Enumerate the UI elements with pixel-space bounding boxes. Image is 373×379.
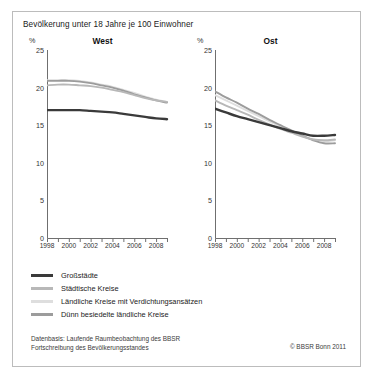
series-line	[215, 95, 335, 141]
panel-ost: % Ost 0510152025199820002002200420062008	[189, 36, 352, 251]
plot-svg	[215, 50, 337, 246]
y-tick-label: 15	[36, 121, 44, 130]
plot-area-ost: 0510152025199820002002200420062008	[215, 50, 335, 238]
x-tick-label: 2004	[273, 242, 288, 249]
x-tick-label: 1998	[208, 242, 223, 249]
panel-title-west: West	[21, 36, 184, 46]
legend-swatch-icon	[31, 300, 53, 303]
panel-west: % West 051015202519982000200220042006200…	[21, 36, 184, 251]
x-tick-label: 2002	[83, 242, 98, 249]
legend-item-label: Städtische Kreise	[61, 284, 119, 293]
legend-item-label: Großstädte	[61, 271, 98, 280]
y-tick-label: 10	[36, 158, 44, 167]
series-line	[215, 100, 335, 140]
legend-item: Großstädte	[31, 269, 341, 282]
legend-swatch-icon	[31, 287, 53, 290]
data-source-line-1: Datenbasis: Laufende Raumbeobachtung des…	[31, 334, 346, 343]
y-tick-label: 5	[40, 196, 44, 205]
legend-item: Städtische Kreise	[31, 282, 341, 295]
legend-item: Ländliche Kreise mit Verdichtungsansätze…	[31, 295, 341, 308]
x-tick-label: 2004	[105, 242, 120, 249]
plot-area-west: 0510152025199820002002200420062008	[47, 50, 167, 238]
copyright-notice: © BBSR Bonn 2011	[290, 343, 346, 350]
figure-title: Bevölkerung unter 18 Jahre je 100 Einwoh…	[23, 20, 193, 29]
legend-swatch-icon	[31, 313, 53, 316]
legend-swatch-icon	[31, 274, 53, 278]
x-tick-label: 2000	[229, 242, 244, 249]
legend-item-label: Ländliche Kreise mit Verdichtungsansätze…	[61, 297, 202, 306]
y-tick-label: 25	[36, 46, 44, 55]
x-tick-label: 1998	[40, 242, 55, 249]
x-tick-label: 2006	[295, 242, 310, 249]
x-tick-label: 2008	[317, 242, 332, 249]
y-tick-label: 15	[204, 121, 212, 130]
y-tick-label: 20	[204, 83, 212, 92]
series-line	[47, 110, 167, 119]
footer: Datenbasis: Laufende Raumbeobachtung des…	[31, 334, 346, 352]
legend: Großstädte Städtische Kreise Ländliche K…	[31, 269, 341, 321]
y-tick-label: 20	[36, 83, 44, 92]
x-tick-label: 2002	[251, 242, 266, 249]
x-tick-label: 2000	[61, 242, 76, 249]
chart-figure: Bevölkerung unter 18 Jahre je 100 Einwoh…	[12, 11, 361, 367]
y-tick-label: 5	[208, 196, 212, 205]
plot-svg	[47, 50, 169, 246]
legend-item-label: Dünn besiedelte ländliche Kreise	[61, 310, 169, 319]
panel-title-ost: Ost	[189, 36, 352, 46]
x-tick-label: 2006	[127, 242, 142, 249]
y-tick-label: 25	[204, 46, 212, 55]
y-tick-label: 10	[204, 158, 212, 167]
x-tick-label: 2008	[149, 242, 164, 249]
legend-item: Dünn besiedelte ländliche Kreise	[31, 308, 341, 321]
